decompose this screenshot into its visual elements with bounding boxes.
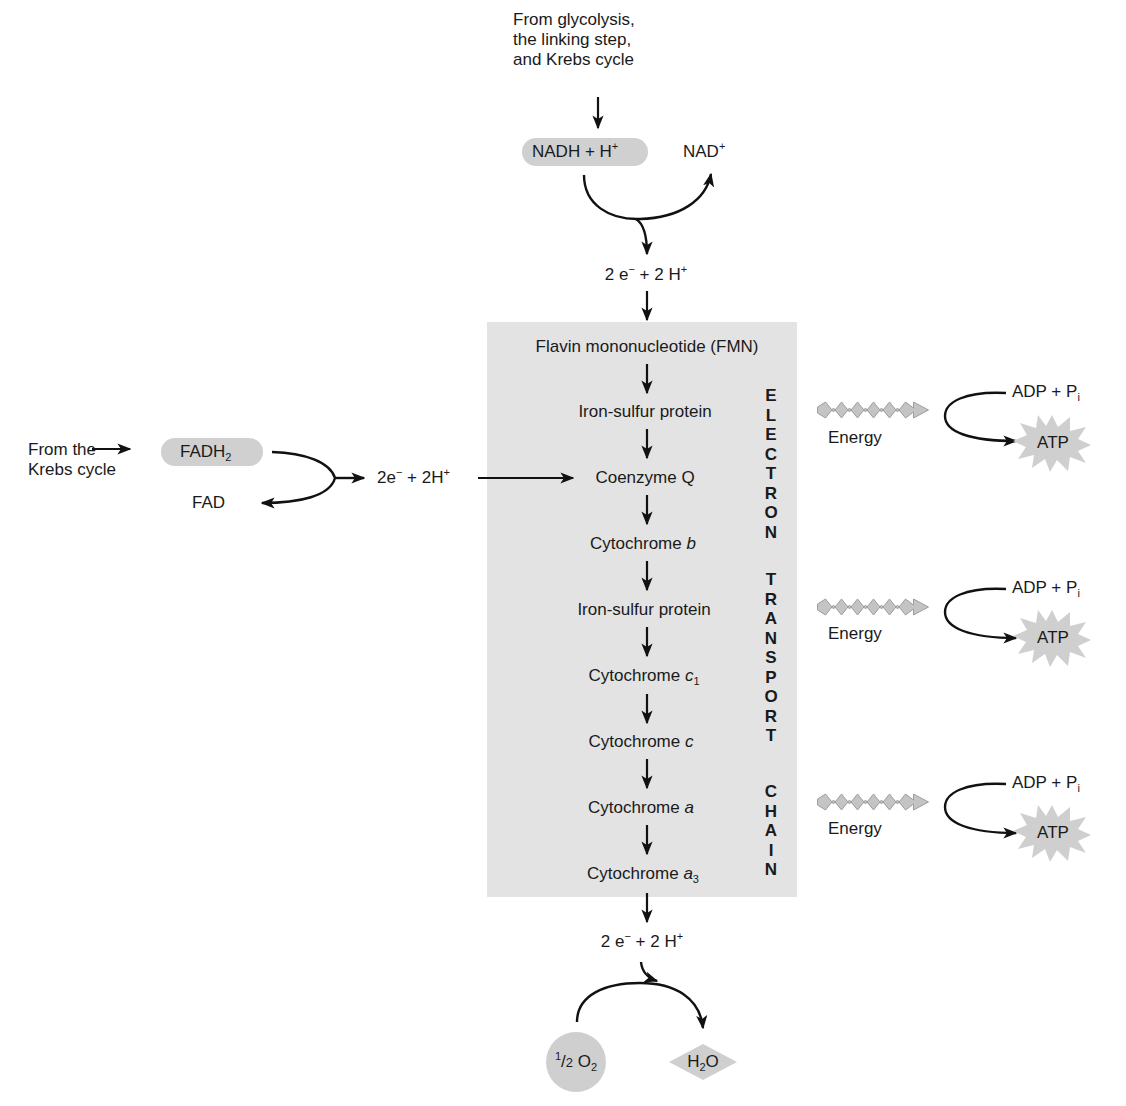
top-source-label: From glycolysis, the linking step, and K… [513,10,635,70]
nadh-oxidation-curve [584,174,711,219]
side-source-label: From the Krebs cycle [28,440,116,480]
vertical-letter: R [765,484,777,504]
carrier-iron-sulfur-2: Iron-sulfur protein [577,600,710,620]
atp-label-3: ATP [1037,823,1069,843]
vertical-letter: I [769,841,774,861]
carrier-cytochrome-b: Cytochrome b [590,534,696,554]
energy-label-1: Energy [828,428,882,448]
carrier-cytochrome-a: Cytochrome a [588,798,694,818]
vertical-label-electron: ELECTRON [762,386,780,542]
fad-label: FAD [192,493,225,513]
atp-label-2: ATP [1037,628,1069,648]
arrow-to-electrons-top [636,219,647,254]
vertical-letter: T [766,570,776,590]
vertical-letter: R [765,590,777,610]
adp-label-1: ADP + Pi [1012,382,1080,402]
oxygen-label: 1/2 O2 [555,1052,597,1073]
energy-label-3: Energy [828,819,882,839]
vertical-letter: T [766,464,776,484]
nadh-label: NADH + H+ [532,142,618,162]
adp-label-2: ADP + Pi [1012,578,1080,598]
fadh2-oxidation-curve [262,452,335,503]
adp-label-3: ADP + Pi [1012,773,1080,793]
electrons-top-label: 2 e− + 2 H+ [605,265,687,285]
vertical-letter: A [765,609,777,629]
vertical-letter: R [765,707,777,727]
vertical-label-transport: TRANSPORT [762,570,780,746]
vertical-letter: L [766,406,776,426]
vertical-letter: E [765,425,776,445]
electrons-side-label: 2e− + 2H+ [377,468,450,488]
vertical-letter: C [765,782,777,802]
carrier-fmn: Flavin mononucleotide (FMN) [536,337,759,357]
oxygen-reduction-curve [577,983,703,1028]
vertical-letter: T [766,726,776,746]
vertical-letter: P [765,668,776,688]
vertical-label-chain: CHAIN [762,782,780,880]
vertical-letter: O [764,687,777,707]
diagram-arrows [0,0,1126,1106]
vertical-letter: S [765,648,776,668]
carrier-cytochrome-c: Cytochrome c [589,732,694,752]
carrier-cytochrome-c1: Cytochrome c1 [589,666,700,686]
vertical-letter: H [765,802,777,822]
carrier-coenzyme-q: Coenzyme Q [595,468,694,488]
carrier-iron-sulfur-1: Iron-sulfur protein [578,402,711,422]
water-label: H2O [687,1052,719,1072]
vertical-letter: N [765,860,777,880]
carrier-cytochrome-a3: Cytochrome a3 [587,864,699,884]
fadh2-label: FADH2 [180,442,231,462]
vertical-letter: A [765,821,777,841]
atp-label-1: ATP [1037,433,1069,453]
energy-label-2: Energy [828,624,882,644]
nad-label: NAD+ [683,142,725,162]
vertical-letter: E [765,386,776,406]
vertical-letter: N [765,629,777,649]
vertical-letter: C [765,445,777,465]
vertical-letter: O [764,503,777,523]
electrons-bottom-label: 2 e− + 2 H+ [601,932,683,952]
vertical-letter: N [765,523,777,543]
